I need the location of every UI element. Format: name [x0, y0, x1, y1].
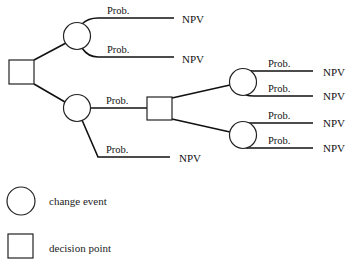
- edge-root-top: [34, 43, 66, 60]
- npv-label: NPV: [323, 117, 345, 129]
- decision-tree-diagram: Prob. Prob. Prob. Prob. Prob. Prob. Prob…: [0, 0, 352, 268]
- right-top-event-node: [230, 69, 257, 96]
- top-event-node: [64, 23, 91, 50]
- legend-decision-point-label: decision point: [49, 242, 111, 254]
- bottom-event-node: [64, 95, 91, 122]
- mid-decision-node: [147, 97, 172, 120]
- npv-label: NPV: [323, 142, 345, 154]
- prob-label: Prob.: [107, 44, 129, 55]
- root-decision-node: [9, 60, 34, 84]
- edge-root-bottom: [34, 84, 65, 102]
- npv-label: NPV: [179, 152, 201, 164]
- npv-label: NPV: [323, 90, 345, 102]
- prob-label: Prob.: [268, 58, 290, 69]
- npv-label: NPV: [182, 13, 204, 25]
- prob-label: Prob.: [268, 83, 290, 94]
- npv-label: NPV: [182, 53, 204, 65]
- prob-label: Prob.: [106, 95, 128, 106]
- legend-change-event-label: change event: [49, 195, 107, 207]
- edge-mid-rt: [172, 85, 230, 98]
- edge-mid-rb: [172, 119, 230, 132]
- legend-square-icon: [8, 234, 33, 258]
- prob-label: Prob.: [268, 110, 290, 121]
- legend: change event decision point: [7, 187, 111, 258]
- edge-rt-2: [246, 95, 313, 96]
- prob-label: Prob.: [268, 135, 290, 146]
- right-bottom-event-node: [230, 122, 257, 149]
- prob-label: Prob.: [107, 5, 129, 16]
- npv-label: NPV: [323, 66, 345, 78]
- edge-rt-1: [246, 70, 313, 71]
- legend-circle-icon: [7, 187, 35, 215]
- edge-top-1: [82, 18, 174, 24]
- prob-label: Prob.: [106, 144, 128, 155]
